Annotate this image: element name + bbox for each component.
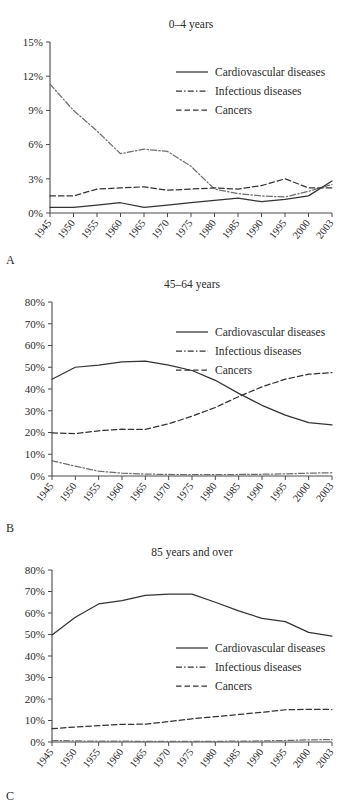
- x-tick-label: 1975: [173, 217, 195, 240]
- chart-title: 0–4 years: [169, 18, 214, 31]
- legend-label-cardiovascular: Cardiovascular diseases: [215, 66, 326, 78]
- legend-label-cardiovascular: Cardiovascular diseases: [215, 642, 326, 654]
- legend-label-infectious: Infectious diseases: [215, 85, 302, 97]
- series-line-cardiovascular: [52, 361, 332, 425]
- x-tick-label: 1975: [174, 480, 196, 503]
- chart-panel-b: 45–64 years0%10%20%30%40%50%60%70%80%194…: [0, 276, 359, 544]
- x-tick-label: 1955: [81, 746, 103, 769]
- x-tick-label: 2003: [314, 217, 336, 240]
- x-tick-label: 1970: [151, 746, 173, 769]
- x-tick-label: 1975: [174, 746, 196, 769]
- x-tick-label: 1955: [81, 480, 103, 503]
- y-tick-label: 50%: [25, 361, 45, 373]
- x-tick-label: 2003: [314, 746, 336, 769]
- x-tick-label: 1945: [34, 746, 56, 769]
- x-tick-label: 1955: [79, 217, 101, 240]
- y-tick-label: 30%: [25, 671, 45, 683]
- x-tick-label: 1990: [244, 746, 266, 769]
- y-tick-label: 0%: [30, 736, 45, 748]
- x-tick-label: 1965: [127, 746, 149, 769]
- series-line-cancers: [52, 373, 332, 434]
- y-tick-label: 60%: [25, 339, 45, 351]
- x-tick-label: 1995: [267, 480, 289, 503]
- legend-label-infectious: Infectious diseases: [215, 661, 302, 673]
- x-tick-label: 1990: [243, 217, 265, 240]
- x-tick-label: 1995: [267, 746, 289, 769]
- x-tick-label: 2000: [291, 746, 313, 769]
- x-tick-label: 1945: [32, 217, 54, 240]
- y-tick-label: 60%: [25, 607, 45, 619]
- x-tick-label: 1960: [102, 217, 124, 240]
- y-tick-label: 6%: [28, 138, 43, 150]
- series-line-infectious: [52, 740, 332, 742]
- x-tick-label: 2000: [291, 480, 313, 503]
- chart-svg-b: 45–64 years0%10%20%30%40%50%60%70%80%194…: [0, 276, 359, 544]
- x-tick-label: 1970: [151, 480, 173, 503]
- chart-title: 45–64 years: [164, 278, 220, 291]
- chart-panel-a: 0–4 years0%3%6%9%12%15%19451950195519601…: [0, 14, 359, 276]
- x-tick-label: 1960: [104, 746, 126, 769]
- legend-label-cancers: Cancers: [215, 680, 253, 692]
- y-tick-label: 70%: [25, 318, 45, 330]
- x-tick-label: 1950: [57, 746, 79, 769]
- panel-letter: C: [6, 789, 14, 803]
- x-tick-label: 1985: [221, 746, 243, 769]
- chart-title: 85 years and over: [151, 546, 233, 559]
- x-tick-label: 1985: [221, 480, 243, 503]
- y-tick-label: 3%: [28, 173, 43, 185]
- x-tick-label: 1990: [244, 480, 266, 503]
- chart-svg-a: 0–4 years0%3%6%9%12%15%19451950195519601…: [0, 14, 359, 276]
- x-tick-label: 2003: [314, 480, 336, 503]
- x-tick-label: 1965: [126, 217, 148, 240]
- y-tick-label: 40%: [25, 650, 45, 662]
- chart-svg-c: 85 years and over0%10%20%30%40%50%60%70%…: [0, 544, 359, 812]
- series-line-cardiovascular: [50, 181, 332, 207]
- x-tick-label: 1950: [55, 217, 77, 240]
- y-tick-label: 80%: [25, 296, 45, 308]
- chart-panel-c: 85 years and over0%10%20%30%40%50%60%70%…: [0, 544, 359, 812]
- y-tick-label: 80%: [25, 564, 45, 576]
- x-tick-label: 1995: [267, 217, 289, 240]
- x-tick-label: 1960: [104, 480, 126, 503]
- x-tick-label: 1965: [127, 480, 149, 503]
- mortality-cause-figure: 0–4 years0%3%6%9%12%15%19451950195519601…: [0, 0, 359, 812]
- y-tick-label: 70%: [25, 585, 45, 597]
- panel-letter: A: [6, 253, 15, 267]
- series-line-cardiovascular: [52, 594, 332, 636]
- y-tick-label: 20%: [25, 693, 45, 705]
- y-tick-label: 30%: [25, 405, 45, 417]
- x-tick-label: 1980: [197, 480, 219, 503]
- y-tick-label: 9%: [28, 104, 43, 116]
- x-tick-label: 1985: [220, 217, 242, 240]
- x-tick-label: 1950: [57, 480, 79, 503]
- legend-label-cancers: Cancers: [215, 104, 253, 116]
- legend-label-infectious: Infectious diseases: [215, 345, 302, 357]
- x-tick-label: 1970: [149, 217, 171, 240]
- y-tick-label: 50%: [25, 628, 45, 640]
- y-tick-label: 10%: [25, 714, 45, 726]
- x-tick-label: 2000: [290, 217, 312, 240]
- y-tick-label: 15%: [23, 36, 43, 48]
- x-tick-label: 1980: [197, 746, 219, 769]
- series-line-cancers: [50, 179, 332, 196]
- y-tick-label: 0%: [28, 207, 43, 219]
- y-tick-label: 40%: [25, 383, 45, 395]
- y-tick-label: 12%: [23, 70, 43, 82]
- series-line-cancers: [52, 709, 332, 728]
- legend-label-cancers: Cancers: [215, 364, 253, 376]
- legend-label-cardiovascular: Cardiovascular diseases: [215, 326, 326, 338]
- panel-letter: B: [6, 521, 14, 535]
- y-tick-label: 10%: [25, 448, 45, 460]
- series-line-infectious: [52, 461, 332, 475]
- x-tick-label: 1945: [34, 480, 56, 503]
- x-tick-label: 1980: [196, 217, 218, 240]
- y-tick-label: 0%: [30, 470, 45, 482]
- y-tick-label: 20%: [25, 426, 45, 438]
